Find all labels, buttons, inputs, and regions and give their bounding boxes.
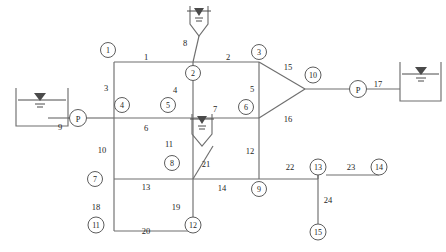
junction-node-4[interactable]: 4 — [115, 98, 130, 113]
pipe-label-3: 3 — [104, 83, 108, 93]
pipe-label-21: 21 — [202, 159, 211, 169]
junction-label: 14 — [375, 163, 383, 172]
pipe-label-9: 9 — [58, 122, 62, 132]
pipe-segment-15 — [259, 62, 305, 89]
pipe-label-4: 4 — [173, 85, 178, 95]
pipe-label-12: 12 — [246, 146, 255, 156]
junction-label: 11 — [92, 221, 100, 230]
pump-left-label: P — [76, 114, 81, 124]
reservoir-top — [187, 6, 211, 36]
junction-node-7[interactable]: 7 — [88, 172, 103, 187]
pipe-label-11: 11 — [165, 139, 173, 149]
junction-node-14[interactable]: 14 — [371, 159, 387, 175]
pipe-label-7: 7 — [213, 104, 217, 114]
junction-node-9[interactable]: 9 — [252, 182, 267, 197]
junction-label: 9 — [257, 185, 261, 194]
reservoir-left — [16, 88, 70, 126]
reservoir-right — [400, 62, 441, 101]
junction-label: 5 — [166, 101, 170, 110]
junction-label: 3 — [257, 48, 261, 57]
pipe-label-24: 24 — [324, 195, 333, 205]
junction-label: 4 — [120, 101, 124, 110]
pipe-segment-16 — [259, 89, 305, 118]
junction-node-5[interactable]: 5 — [161, 98, 176, 113]
junction-label: 10 — [309, 71, 317, 80]
pipe-label-19: 19 — [172, 202, 181, 212]
junction-node-10[interactable]: 10 — [305, 67, 321, 83]
junction-node-3[interactable]: 3 — [252, 45, 267, 60]
pipe-label-16: 16 — [284, 114, 293, 124]
pipe-label-22: 22 — [286, 162, 295, 172]
pump-right[interactable]: P — [350, 81, 367, 98]
pipe-label-14: 14 — [218, 183, 227, 193]
pipe-label-6: 6 — [144, 123, 148, 133]
junction-label: 8 — [170, 159, 174, 168]
junction-node-2[interactable]: 2 — [186, 66, 201, 81]
pipe-label-10: 10 — [98, 145, 107, 155]
pipe-label-8: 8 — [183, 38, 187, 48]
junction-label: 2 — [191, 69, 195, 78]
junction-node-11[interactable]: 11 — [88, 217, 104, 233]
pipe-label-20: 20 — [142, 226, 151, 236]
pipe-label-23: 23 — [347, 162, 356, 172]
junction-label: 1 — [106, 46, 110, 55]
pump-left[interactable]: P — [70, 110, 87, 127]
network-diagram-canvas: P P 1 2 3 4 5 6 — [0, 0, 446, 252]
reservoir-mid — [190, 114, 214, 146]
junction-node-15[interactable]: 15 — [310, 224, 326, 240]
pipe-label-13: 13 — [142, 182, 151, 192]
pipe-network — [48, 36, 400, 231]
network-svg: P P 1 2 3 4 5 6 — [0, 0, 446, 252]
junction-node-12[interactable]: 12 — [185, 217, 201, 233]
junction-label: 6 — [244, 103, 248, 112]
pipe-label-1: 1 — [144, 52, 148, 62]
junction-label: 13 — [314, 163, 322, 172]
junction-node-13[interactable]: 13 — [310, 159, 326, 175]
pipe-label-2: 2 — [226, 52, 230, 62]
junction-label: 7 — [93, 175, 97, 184]
junction-label: 15 — [314, 228, 322, 237]
pipe-label-15: 15 — [284, 62, 293, 72]
junction-label: 12 — [189, 221, 197, 230]
pipe-label-18: 18 — [92, 202, 101, 212]
junction-node-1[interactable]: 1 — [101, 43, 116, 58]
pipe-segment-8 — [193, 36, 199, 62]
junction-node-6[interactable]: 6 — [239, 100, 254, 115]
pipe-label-5: 5 — [250, 84, 254, 94]
junction-node-8[interactable]: 8 — [165, 156, 180, 171]
pipe-label-17: 17 — [374, 79, 383, 89]
pump-right-label: P — [356, 85, 361, 95]
